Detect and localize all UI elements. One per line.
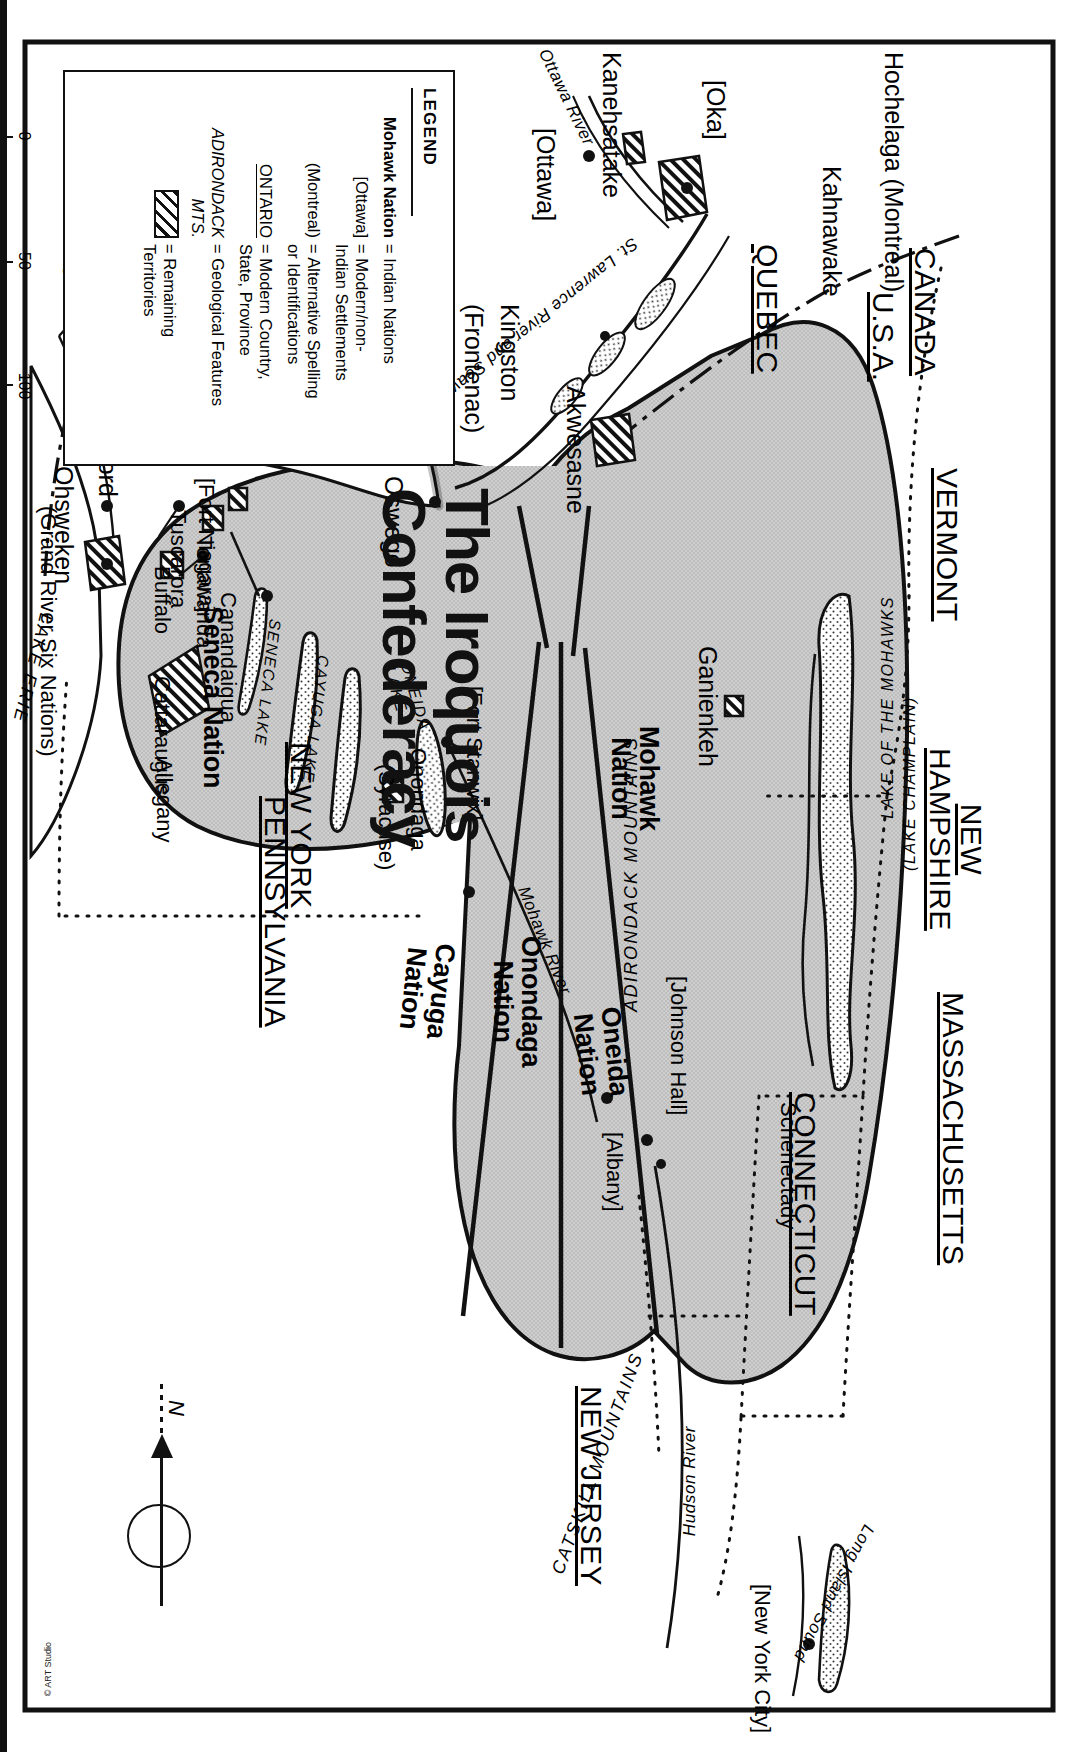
label-massachusetts: MASSACHUSETTS <box>938 992 969 1265</box>
label-kahnawake: Kahnawake <box>819 166 845 297</box>
label-canandaigua: Canandaigua <box>216 592 239 723</box>
hatch-swatch-icon <box>154 190 179 238</box>
label-canada: CANADA <box>910 248 941 376</box>
label-buffalo: Buffalo <box>150 566 173 634</box>
scale-midtick <box>0 261 13 263</box>
legend-value-country: = Modern Country, State, Province <box>236 244 275 448</box>
scale-tick-100: 100 <box>15 373 33 400</box>
legend-value-remaining: = Remaining Territories <box>140 244 179 448</box>
legend-row-alt-spelling: (Montreal) = Alternative Spelling or Ide… <box>284 88 323 448</box>
label-kanehsatake: Kanehsatake <box>599 52 625 198</box>
label-oneida-nation: Oneida Nation <box>568 1005 633 1100</box>
legend-value-nation: = Indian Nations <box>380 244 399 448</box>
label-lake-champlain: (LAKE CHAMPLAIN) <box>902 696 919 871</box>
label-pennsylvania: PENNSYLVANIA <box>260 796 291 1028</box>
compass-rose: N <box>113 1504 209 1694</box>
label-schenectady: Schenectady <box>776 1102 799 1229</box>
label-vermont: VERMONT <box>932 468 963 622</box>
legend-row-remaining: = Remaining Territories <box>140 88 179 448</box>
label-cayuga-nation: Cayuga Nation <box>394 939 460 1040</box>
map-page: CANADA U.S.A. Hochelaga (Montreal) Kahna… <box>0 0 1078 1752</box>
label-lake-of-the-mohawks: LAKE OF THE MOHAWKS <box>880 596 897 819</box>
label-oka: [Oka] <box>703 80 729 140</box>
label-allegany: Allegany <box>152 758 175 842</box>
legend-key-nation: Mohawk Nation <box>381 117 399 238</box>
legend-value-settlement: = Modern/non- Indian Settlements <box>332 244 371 448</box>
label-new-york-city: [New York City] <box>750 1584 773 1733</box>
label-hochelaga: Hochelaga (Montreal) <box>881 52 907 292</box>
label-ganienkeh: Ganienkeh <box>695 646 721 767</box>
legend-key-settlement: [Ottawa] <box>353 177 371 238</box>
scale-tick-0: 0 <box>15 132 33 141</box>
map-credit: © ART Studio <box>43 1642 53 1696</box>
label-quebec: QUEBEC <box>752 244 783 374</box>
legend-row-country: ONTARIO = Modern Country, State, Provinc… <box>236 88 275 448</box>
legend-value-alt-spelling: = Alternative Spelling or Identification… <box>284 244 323 448</box>
label-usa: U.S.A. <box>868 292 899 382</box>
map-title-line1: The Iroquois <box>436 488 499 847</box>
legend-row-geological: ADIRONDACK MTS. = Geological Features <box>188 88 227 448</box>
legend-key-alt-spelling: (Montreal) <box>305 163 323 238</box>
legend-heading: LEGEND <box>419 88 439 448</box>
label-onondaga-nation: Onondaga Nation <box>489 936 545 1067</box>
label-johnson-hall: [Johnson Hall] <box>666 976 689 1115</box>
label-frontenac: (Frontenac) <box>461 304 487 433</box>
compass-north-label: N <box>163 1400 189 1416</box>
label-kingston: Kingston <box>497 304 523 401</box>
legend-rule <box>411 88 413 216</box>
legend-row-settlements: [Ottawa] = Modern/non- Indian Settlement… <box>332 88 371 448</box>
label-tonawanda: Tonawanda <box>192 536 215 649</box>
label-new-hampshire: NEW HAMPSHIRE <box>925 748 987 931</box>
legend-key-geological: ADIRONDACK MTS. <box>189 128 226 238</box>
scale-bar-line <box>0 136 13 386</box>
scale-tick-50: 50 <box>15 252 33 270</box>
label-ottawa-city: [Ottawa] <box>533 128 559 221</box>
legend-box: LEGEND Mohawk Nation = Indian Nations [O… <box>63 70 455 466</box>
legend-row-nations: Mohawk Nation = Indian Nations <box>380 88 399 448</box>
legend-key-country: ONTARIO <box>257 164 275 238</box>
label-mohawk-nation: Mohawk Nation <box>607 726 663 831</box>
label-akwesasne: Akwesasne <box>563 386 589 514</box>
scale-bar: 0 50 100 MILES <box>0 136 33 386</box>
map-title: The Iroquois Confederacy <box>373 488 499 847</box>
map-title-line2: Confederacy <box>373 488 436 847</box>
label-hudson-river: Hudson River <box>681 1426 699 1536</box>
compass-circle-icon <box>127 1504 191 1568</box>
legend-value-geological: = Geological Features <box>188 244 227 448</box>
compass-needle-shaft <box>160 1446 163 1606</box>
map-canvas: CANADA U.S.A. Hochelaga (Montreal) Kahna… <box>19 36 1059 1716</box>
label-albany: [Albany] <box>602 1132 625 1212</box>
